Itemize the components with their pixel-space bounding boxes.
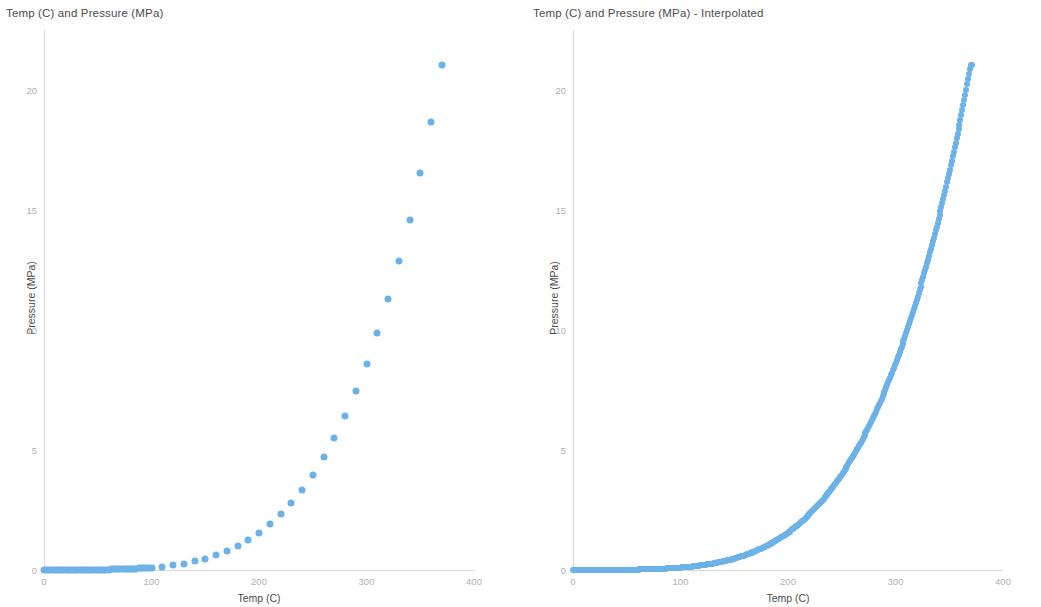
y-axis-line-left <box>44 30 45 570</box>
y-tick-label: 20 <box>26 85 37 96</box>
plot-area-right: Pressure (MPa) Temp (C) 0510152001002003… <box>573 30 1003 570</box>
data-point <box>417 170 424 177</box>
y-tick-label: 15 <box>555 205 566 216</box>
data-point <box>428 119 435 126</box>
data-point <box>159 563 166 570</box>
data-point <box>191 558 198 565</box>
data-point <box>352 388 359 395</box>
data-point <box>170 562 177 569</box>
data-point <box>299 486 306 493</box>
data-point <box>309 471 316 478</box>
y-tick-label: 15 <box>26 205 37 216</box>
x-tick-label: 300 <box>359 576 375 587</box>
y-tick-label: 10 <box>555 325 566 336</box>
plot-area-left: Pressure (MPa) Temp (C) 0510152001002003… <box>44 30 474 570</box>
y-tick-label: 5 <box>561 445 566 456</box>
data-point <box>374 330 381 337</box>
data-point <box>180 560 187 567</box>
data-point <box>256 529 263 536</box>
data-point <box>331 434 338 441</box>
data-point <box>202 555 209 562</box>
x-axis-label-left: Temp (C) <box>237 592 280 604</box>
data-point <box>342 413 349 420</box>
data-point <box>395 258 402 265</box>
x-tick-label: 200 <box>251 576 267 587</box>
curve-point <box>969 62 975 68</box>
data-point <box>363 360 370 367</box>
x-tick-label: 200 <box>780 576 796 587</box>
chart-title-right: Temp (C) and Pressure (MPa) - Interpolat… <box>533 7 764 19</box>
x-axis-label-right: Temp (C) <box>766 592 809 604</box>
y-tick-label: 20 <box>555 85 566 96</box>
figure-container: Temp (C) and Pressure (MPa) Pressure (MP… <box>0 0 1041 607</box>
x-tick-label: 0 <box>41 576 46 587</box>
data-point <box>438 61 445 68</box>
data-point <box>213 552 220 559</box>
data-point <box>234 542 241 549</box>
data-point <box>320 454 327 461</box>
x-tick-label: 0 <box>570 576 575 587</box>
data-point <box>385 296 392 303</box>
data-point <box>223 547 230 554</box>
y-tick-label: 0 <box>32 565 37 576</box>
x-tick-label: 100 <box>144 576 160 587</box>
data-point <box>266 521 273 528</box>
x-tick-label: 400 <box>466 576 482 587</box>
x-tick-label: 400 <box>995 576 1011 587</box>
data-point <box>406 216 413 223</box>
y-tick-label: 0 <box>561 565 566 576</box>
data-point <box>277 511 284 518</box>
data-point <box>288 499 295 506</box>
chart-panel-scatter: Temp (C) and Pressure (MPa) Pressure (MP… <box>0 0 520 607</box>
y-tick-label: 10 <box>26 325 37 336</box>
chart-panel-interpolated: Temp (C) and Pressure (MPa) - Interpolat… <box>521 0 1041 607</box>
data-point <box>245 536 252 543</box>
y-axis-line-right <box>573 30 574 570</box>
x-tick-label: 100 <box>673 576 689 587</box>
x-tick-label: 300 <box>888 576 904 587</box>
data-point <box>148 564 155 571</box>
y-tick-label: 5 <box>32 445 37 456</box>
chart-title-left: Temp (C) and Pressure (MPa) <box>6 7 163 19</box>
